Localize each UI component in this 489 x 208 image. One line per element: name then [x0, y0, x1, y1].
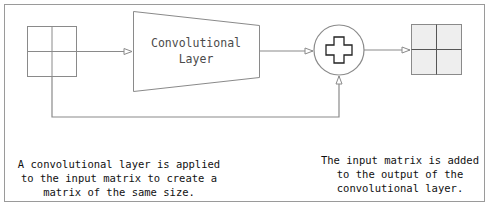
caption-right: The input matrix is added to the output …: [320, 153, 480, 195]
conv-layer-label-line1: Convolutional: [151, 36, 241, 50]
caption-left-line3: matrix of the same size.: [14, 185, 224, 199]
caption-right-line1: The input matrix is added: [320, 153, 480, 167]
caption-left-line2: to the input matrix to create a: [14, 171, 224, 185]
conv-layer-label-line2: Layer: [179, 52, 214, 66]
caption-left-line1: A convolutional layer is applied: [14, 157, 224, 171]
input-matrix: [28, 27, 77, 77]
caption-right-line2: to the output of the: [320, 167, 480, 181]
output-matrix: [412, 25, 462, 75]
conv-layer-block: Convolutional Layer: [134, 12, 260, 92]
add-operation: [314, 25, 364, 75]
caption-left: A convolutional layer is applied to the …: [14, 157, 224, 199]
caption-right-line3: convolutional layer.: [320, 181, 480, 195]
